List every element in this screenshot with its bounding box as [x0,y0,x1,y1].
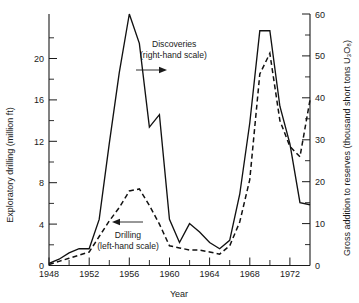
x-ticklabel-1964: 1964 [200,269,220,279]
right-axis-title: Gross addition to reserves (thousand sho… [342,40,352,256]
x-ticklabel-1952: 1952 [79,269,99,279]
right-ticklabel-30: 30 [315,135,325,145]
discoveries-annotation-arrowhead [159,67,167,74]
right-ticklabel-0: 0 [315,261,320,271]
left-axis-title: Exploratory drilling (million ft) [5,107,15,223]
series-drilling-line [49,53,310,264]
x-ticklabel-1956: 1956 [119,269,139,279]
x-ticklabel-1972: 1972 [280,269,300,279]
discoveries-annotation-line1: Discoveries [152,39,196,49]
discoveries-annotation-line2: (right-hand scale) [140,50,207,60]
drilling-annotation-arrowhead [112,219,120,226]
discoveries-annotation: Discoveries (right-hand scale) [136,39,207,73]
right-ticklabel-50: 50 [315,51,325,61]
drilling-annotation-line2: (left-hand scale) [97,241,159,251]
x-axis-major-ticks [49,258,290,266]
right-ticklabel-20: 20 [315,177,325,187]
left-ticklabel-20: 20 [34,54,44,64]
right-axis-ticklabels: 0 10 20 30 40 50 60 [315,10,325,272]
x-axis-ticklabels: 1948 1952 1956 1960 1964 1968 1972 [39,269,300,279]
left-ticklabel-4: 4 [39,220,44,230]
right-ticklabel-10: 10 [315,219,325,229]
dual-axis-line-chart: 0 4 8 12 16 20 0 10 [0,0,359,303]
x-ticklabel-1960: 1960 [159,269,179,279]
x-ticklabel-1948: 1948 [39,269,59,279]
left-ticklabel-8: 8 [39,178,44,188]
left-ticklabel-12: 12 [34,137,44,147]
left-axis-ticklabels: 0 4 8 12 16 20 [34,54,44,271]
chart-figure: 0 4 8 12 16 20 0 10 [0,0,359,303]
x-axis-title: Year [170,289,188,299]
drilling-annotation: Drilling (left-hand scale) [97,219,159,251]
right-ticklabel-40: 40 [315,93,325,103]
right-ticklabel-60: 60 [315,10,325,20]
right-axis-major-ticks [302,14,310,266]
x-ticklabel-1968: 1968 [240,269,260,279]
drilling-annotation-line1: Drilling [115,230,141,240]
left-ticklabel-16: 16 [34,95,44,105]
